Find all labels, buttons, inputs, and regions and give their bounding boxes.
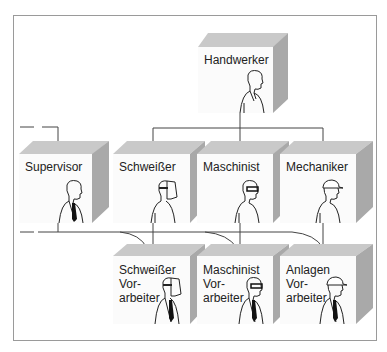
box-handwerker[interactable]: Handwerker bbox=[198, 33, 288, 113]
box-side-face bbox=[92, 141, 109, 223]
box-label: Mechaniker bbox=[286, 160, 348, 174]
box-side-face bbox=[356, 141, 373, 223]
box-top-face bbox=[197, 244, 289, 256]
person-with-tie-icon bbox=[57, 179, 87, 223]
box-schweisser-vorarbeiter[interactable]: Schweißer Vor- arbeiter bbox=[113, 244, 205, 324]
person-glasses-icon bbox=[233, 179, 263, 223]
box-schweisser[interactable]: Schweißer bbox=[113, 141, 205, 223]
box-label: Supervisor bbox=[25, 160, 82, 174]
box-mechaniker[interactable]: Mechaniker bbox=[280, 141, 373, 223]
person-welding-mask-tie-icon bbox=[153, 276, 185, 324]
box-top-face bbox=[113, 244, 205, 256]
box-side-face bbox=[273, 33, 288, 113]
box-label: Handwerker bbox=[204, 53, 269, 67]
person-glasses-tie-icon bbox=[237, 276, 267, 324]
person-hard-hat-tie-icon bbox=[318, 276, 350, 324]
box-maschinist-vorarbeiter[interactable]: Maschinist Vor- arbeiter bbox=[197, 244, 289, 324]
box-top-face bbox=[113, 141, 205, 154]
box-label: Schweißer bbox=[119, 160, 176, 174]
person-welding-mask-icon bbox=[149, 179, 181, 223]
box-top-face bbox=[197, 141, 289, 154]
box-anlagen-vorarbeiter[interactable]: Anlagen Vor- arbeiter bbox=[280, 244, 373, 324]
box-supervisor[interactable]: Supervisor bbox=[19, 141, 109, 223]
person-hard-hat-icon bbox=[314, 179, 346, 223]
person-icon bbox=[238, 69, 268, 113]
box-side-face bbox=[356, 244, 373, 324]
box-maschinist[interactable]: Maschinist bbox=[197, 141, 289, 223]
box-top-face bbox=[198, 33, 288, 47]
box-label: Maschinist bbox=[203, 160, 260, 174]
